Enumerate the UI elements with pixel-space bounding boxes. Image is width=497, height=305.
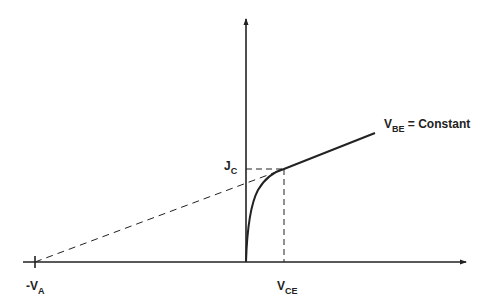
neg-va-label: -VA bbox=[26, 279, 45, 296]
vbe-constant-label: VBE = Constant bbox=[384, 117, 470, 134]
vce-label: VCE bbox=[277, 279, 298, 296]
jc-label: JC bbox=[224, 159, 238, 176]
characteristic-curve bbox=[246, 133, 375, 262]
early-effect-diagram: -VA JC VCE VBE = Constant bbox=[0, 0, 497, 305]
